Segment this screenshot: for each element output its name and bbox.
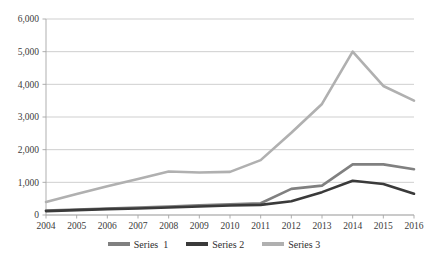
line-chart: 01,0002,0003,0004,0005,0006,000 20042005… xyxy=(0,0,428,264)
x-axis-tick-label: 2005 xyxy=(67,221,86,231)
x-axis-tick-labels: 2004200520062007200820092010201120122013… xyxy=(37,215,424,231)
x-axis-tick-label: 2011 xyxy=(251,221,270,231)
y-axis-tick-label: 4,000 xyxy=(18,80,40,90)
legend-item[interactable]: Series 3 xyxy=(262,239,320,250)
x-axis-tick-label: 2004 xyxy=(37,221,56,231)
x-axis-tick-label: 2010 xyxy=(221,221,240,231)
y-axis-tick-label: 1,000 xyxy=(18,178,40,188)
x-axis-tick-label: 2006 xyxy=(98,221,117,231)
x-axis-tick-label: 2015 xyxy=(374,221,393,231)
legend-color-swatch xyxy=(262,242,284,246)
legend-color-swatch xyxy=(108,242,130,246)
legend-item-label: Series 2 xyxy=(212,239,244,250)
x-axis-tick-label: 2016 xyxy=(405,221,424,231)
y-axis-tick-label: 6,000 xyxy=(18,14,40,24)
y-axis-tick-label: 3,000 xyxy=(18,112,40,122)
series-line xyxy=(46,52,414,202)
x-axis-tick-label: 2014 xyxy=(343,221,362,231)
y-axis-tick-label: 2,000 xyxy=(18,145,40,155)
legend-item-label: Series 3 xyxy=(288,239,320,250)
y-axis-tick-label: 0 xyxy=(34,210,39,220)
legend-item[interactable]: Series 1 xyxy=(108,239,168,250)
series-line xyxy=(46,181,414,211)
chart-plot-area: 01,0002,0003,0004,0005,0006,000 20042005… xyxy=(0,0,428,264)
chart-legend: Series 1Series 2Series 3 xyxy=(0,236,428,252)
x-axis-tick-label: 2007 xyxy=(129,221,148,231)
y-axis-tick-labels: 01,0002,0003,0004,0005,0006,000 xyxy=(18,14,46,220)
legend-color-swatch xyxy=(186,242,208,246)
x-axis-tick-label: 2008 xyxy=(159,221,178,231)
series-lines-group xyxy=(46,52,414,211)
y-axis-tick-label: 5,000 xyxy=(18,47,40,57)
x-axis-tick-label: 2013 xyxy=(313,221,332,231)
legend-item[interactable]: Series 2 xyxy=(186,239,244,250)
gridlines-group xyxy=(46,19,414,215)
legend-item-label: Series 1 xyxy=(134,239,168,250)
x-axis-tick-label: 2009 xyxy=(190,221,209,231)
x-axis-tick-label: 2012 xyxy=(282,221,301,231)
